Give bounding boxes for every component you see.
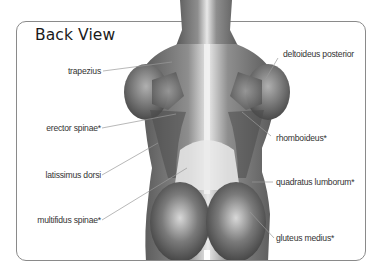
leader-deltoideus-posterior <box>265 58 278 80</box>
leader-erector-spinae <box>102 114 176 128</box>
label-rhomboideus: rhomboideus* <box>276 133 327 143</box>
label-multifidus-spinae: multifidus spinae* <box>37 215 101 225</box>
label-deltoideus-posterior: deltoideus posterior <box>283 49 354 59</box>
label-trapezius: trapezius <box>68 66 101 76</box>
label-quadratus-lumborum: quadratus lumborum* <box>276 177 354 187</box>
label-gluteus-medius: gluteus medius* <box>276 233 334 243</box>
leader-multifidus-spinae <box>102 168 187 220</box>
leader-gluteus-medius <box>250 212 274 238</box>
leader-latissimus-dorsi <box>102 143 158 175</box>
leader-rhomboideus <box>242 112 271 136</box>
label-erector-spinae: erector spinae* <box>46 123 101 133</box>
label-latissimus-dorsi: latissimus dorsi <box>45 170 101 180</box>
leader-trapezius <box>103 62 172 71</box>
